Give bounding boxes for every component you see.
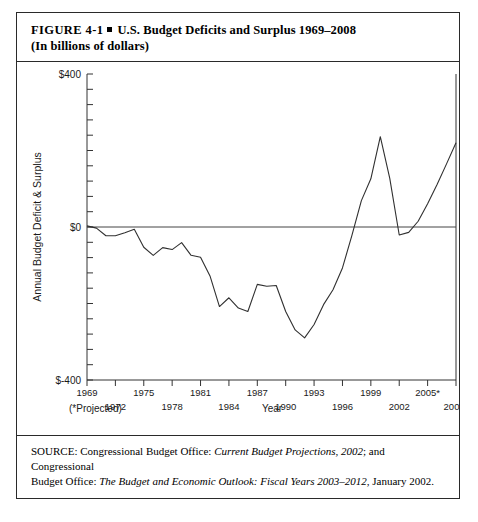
figure-number: FIGURE 4-1 xyxy=(31,23,103,37)
x-ticklabel-2002: 2002 xyxy=(389,401,410,412)
source-line2-italic: The Budget and Economic Outlook: Fiscal … xyxy=(99,475,367,487)
y-ticklabel-neg400: $-400 xyxy=(55,375,81,386)
y-ticklabel-0: $0 xyxy=(70,222,82,233)
source-line-2: Budget Office: The Budget and Economic O… xyxy=(31,474,445,489)
figure-title-text: U.S. Budget Deficits and Surplus 1969–20… xyxy=(117,23,356,37)
x-ticklabel-1996: 1996 xyxy=(332,401,353,412)
figure-title-line1: FIGURE 4-1U.S. Budget Deficits and Surpl… xyxy=(31,22,445,38)
figure-container: FIGURE 4-1U.S. Budget Deficits and Surpl… xyxy=(16,12,460,499)
y-ticklabel-400: $400 xyxy=(59,69,82,80)
x-ticklabel-1981: 1981 xyxy=(190,387,211,398)
x-ticklabel-2008p: 2008* xyxy=(444,401,459,412)
source-line1-prefix: SOURCE: Congressional Budget Office: xyxy=(31,445,214,457)
x-axis-label: Year xyxy=(262,403,283,414)
x-ticklabel-1993: 1993 xyxy=(304,387,325,398)
x-ticklabel-1984: 1984 xyxy=(218,401,239,412)
y-axis-label: Annual Budget Deficit & Surplus xyxy=(31,152,43,301)
figure-title-block: FIGURE 4-1U.S. Budget Deficits and Surpl… xyxy=(17,13,459,62)
x-ticklabel-1978: 1978 xyxy=(162,401,183,412)
projected-footnote: (*Projected) xyxy=(69,403,122,414)
x-axis-labels-top-row: 1969197519811987199319992005* xyxy=(76,387,440,398)
chart-plot-area: $400 $0 $-400 Annual Budget Deficit & Su… xyxy=(17,62,459,418)
x-ticklabel-2005p: 2005* xyxy=(415,387,440,398)
figure-subtitle: (In billions of dollars) xyxy=(31,38,445,54)
budget-deficit-line-chart: $400 $0 $-400 Annual Budget Deficit & Su… xyxy=(17,62,459,418)
series-line-budget xyxy=(87,137,456,338)
source-line2-suffix: , January 2002. xyxy=(367,475,434,487)
square-bullet-icon xyxy=(107,27,112,32)
x-ticklabel-1975: 1975 xyxy=(133,387,154,398)
x-ticklabel-1969: 1969 xyxy=(76,387,97,398)
source-line1-italic: Current Budget Projections, 2002 xyxy=(214,445,363,457)
x-axis-ticks xyxy=(87,380,456,386)
source-line2-prefix: Budget Office: xyxy=(31,475,99,487)
source-line-1: SOURCE: Congressional Budget Office: Cur… xyxy=(31,444,445,474)
source-note-block: SOURCE: Congressional Budget Office: Cur… xyxy=(17,435,459,498)
x-ticklabel-1987: 1987 xyxy=(247,387,268,398)
x-ticklabel-1999: 1999 xyxy=(360,387,381,398)
